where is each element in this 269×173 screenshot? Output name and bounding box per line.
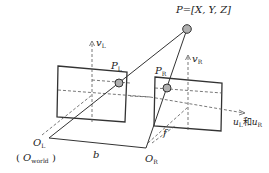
right-origin-label: OR [145, 154, 158, 165]
left-image-point-label: PL [111, 61, 122, 72]
right-image-point-marker [163, 84, 171, 92]
world-point-label: P=[X, Y, Z] [176, 5, 231, 15]
right-v-axis-label: vR [192, 54, 202, 65]
left-v-axis-label: vL [96, 38, 106, 49]
world-point-marker [183, 25, 192, 34]
left-optical-dash [42, 95, 92, 135]
left-image-point-marker [115, 79, 123, 87]
baseline-line [49, 138, 146, 148]
focal-length-label: f [163, 128, 167, 138]
world-origin-label: ( Oworld ) [16, 153, 56, 164]
left-origin-label: OL [33, 138, 45, 149]
baseline-label: b [93, 150, 99, 160]
left-pl-dash [92, 80, 130, 83]
right-image-point-label: PR [155, 66, 166, 77]
u-axis-label: uL和uR [233, 118, 262, 128]
u-axis [150, 97, 244, 113]
